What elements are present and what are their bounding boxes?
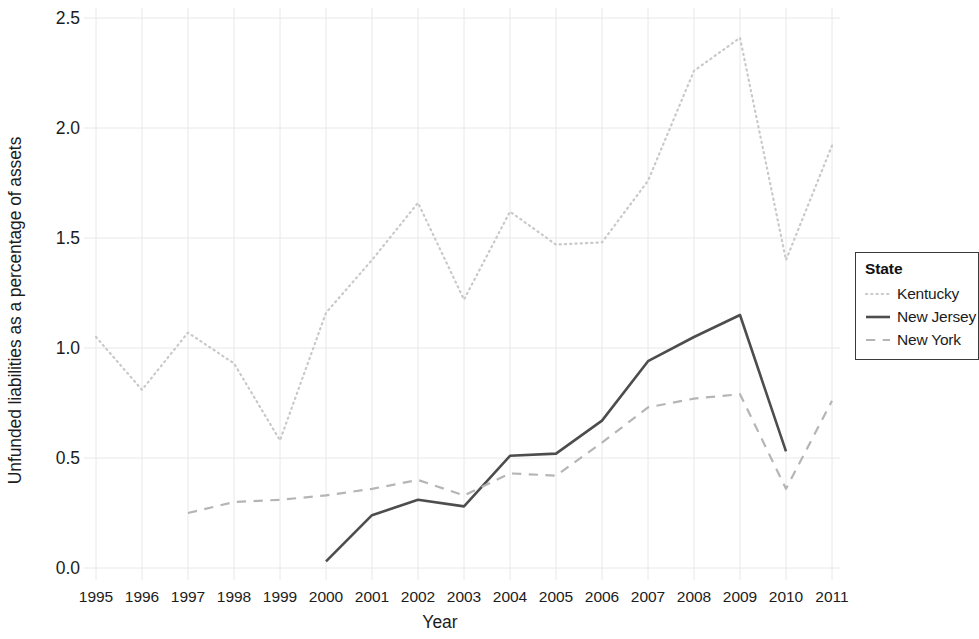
legend-label: Kentucky bbox=[897, 285, 959, 303]
x-tick-label: 2010 bbox=[769, 588, 803, 606]
legend-swatch-new-york-icon bbox=[865, 333, 891, 347]
x-tick-label: 2004 bbox=[493, 588, 527, 606]
x-axis-tick-labels: 1995199619971998199920002001200220032004… bbox=[0, 588, 975, 612]
x-axis-title: Year bbox=[0, 612, 880, 633]
x-tick-label: 2007 bbox=[631, 588, 665, 606]
x-tick-label: 2008 bbox=[677, 588, 711, 606]
x-tick-label: 1999 bbox=[263, 588, 297, 606]
y-tick-label: 0.0 bbox=[24, 558, 80, 579]
x-tick-label: 1996 bbox=[125, 588, 159, 606]
x-tick-label: 2002 bbox=[401, 588, 435, 606]
legend-entry[interactable]: New York bbox=[865, 328, 970, 351]
legend-entries: KentuckyNew JerseyNew York bbox=[865, 282, 970, 351]
legend-entry[interactable]: New Jersey bbox=[865, 305, 970, 328]
x-tick-label: 1997 bbox=[171, 588, 205, 606]
legend-swatch-new-jersey-icon bbox=[865, 310, 891, 324]
legend-title: State bbox=[865, 260, 970, 278]
legend-swatch-kentucky-icon bbox=[865, 287, 891, 301]
y-tick-label: 1.0 bbox=[24, 338, 80, 359]
y-tick-label: 1.5 bbox=[24, 228, 80, 249]
plot-svg bbox=[84, 8, 840, 580]
x-tick-label: 2003 bbox=[447, 588, 481, 606]
x-tick-label: 2009 bbox=[723, 588, 757, 606]
legend-label: New York bbox=[897, 331, 961, 349]
plot-area bbox=[84, 8, 840, 580]
y-axis-tick-labels: 0.00.51.01.52.02.5 bbox=[24, 0, 80, 639]
x-tick-label: 2011 bbox=[815, 588, 848, 606]
x-tick-label: 2006 bbox=[585, 588, 619, 606]
x-tick-label: 1995 bbox=[79, 588, 113, 606]
x-tick-label: 2000 bbox=[309, 588, 343, 606]
x-tick-label: 1998 bbox=[217, 588, 251, 606]
x-tick-label: 2005 bbox=[539, 588, 573, 606]
legend-entry[interactable]: Kentucky bbox=[865, 282, 970, 305]
x-tick-label: 2001 bbox=[355, 588, 389, 606]
y-tick-label: 0.5 bbox=[24, 448, 80, 469]
legend: State KentuckyNew JerseyNew York bbox=[855, 252, 979, 360]
y-tick-label: 2.0 bbox=[24, 118, 80, 139]
grid-lines bbox=[84, 8, 840, 580]
legend-label: New Jersey bbox=[897, 308, 976, 326]
y-tick-label: 2.5 bbox=[24, 8, 80, 29]
